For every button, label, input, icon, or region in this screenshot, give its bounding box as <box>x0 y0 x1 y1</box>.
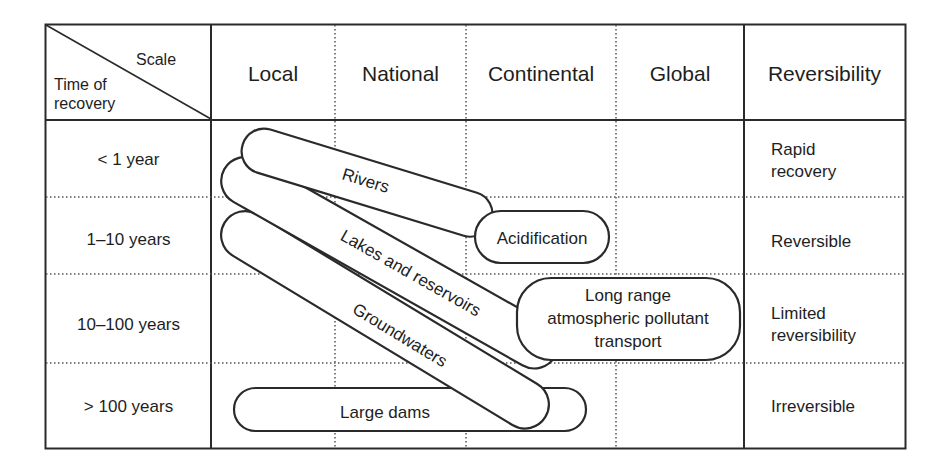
acidification-label: Acidification <box>497 229 588 248</box>
impact-shapes: Rivers Lakes and reservoirs Groundwaters… <box>0 0 947 470</box>
long-range-label-line2: atmospheric pollutant <box>547 309 709 328</box>
long-range-label-line3: transport <box>594 332 661 351</box>
large-dams-label: Large dams <box>340 403 430 422</box>
long-range-label-line1: Long range <box>585 286 671 305</box>
